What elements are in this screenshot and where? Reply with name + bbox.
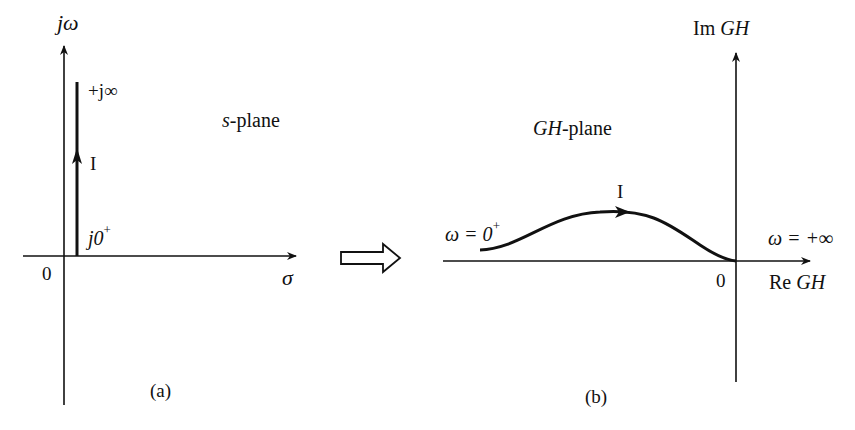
caption-b: (b): [585, 386, 607, 408]
path-direction-label-b: I: [617, 181, 623, 202]
im-gh-italic: GH: [720, 17, 750, 39]
omega-zero-base: ω = 0: [445, 223, 493, 245]
j-omega-axis-label: jω: [54, 10, 79, 35]
nyquist-mapping-figure: jω +j∞ I j0+ 0 σ s-plane (a) Im GH GH-pl…: [0, 0, 855, 430]
origin-label-b: 0: [716, 270, 726, 291]
gh-plane-label: GH-plane: [533, 117, 612, 140]
caption-a: (a): [150, 380, 171, 402]
path-direction-label-a: I: [90, 153, 96, 174]
panel-b-gh-plane: Im GH GH-plane I ω = 0+ ω = +∞ 0 Re GH (…: [443, 17, 833, 408]
gh-plane-label-rest: -plane: [562, 117, 612, 140]
re-gh-italic: GH: [796, 271, 826, 293]
im-gh-axis-label: Im GH: [693, 17, 751, 39]
j-zero-plus-label: j0+: [85, 222, 111, 250]
origin-label-a: 0: [42, 263, 52, 284]
sigma-axis-label: σ: [282, 265, 294, 290]
plus-j-infinity-label: +j∞: [88, 80, 118, 101]
omega-zero-sup: +: [493, 218, 500, 233]
omega-infinity-label: ω = +∞: [768, 227, 833, 249]
gh-plane-path: [480, 211, 736, 261]
j-zero-base: j0: [85, 227, 104, 250]
hollow-right-arrow-icon: [341, 244, 400, 272]
s-plane-label: s-plane: [222, 109, 280, 132]
s-plane-label-rest: -plane: [230, 109, 280, 132]
re-gh-axis-label: Re GH: [769, 271, 827, 293]
re-prefix: Re: [769, 271, 796, 293]
s-plane-label-italic: s: [222, 109, 230, 131]
panel-a-s-plane: jω +j∞ I j0+ 0 σ s-plane (a): [23, 10, 296, 405]
gh-plane-label-italic: GH: [533, 117, 563, 139]
j-zero-sup: +: [104, 222, 111, 237]
im-prefix: Im: [693, 17, 720, 39]
omega-zero-plus-label: ω = 0+: [445, 218, 500, 245]
